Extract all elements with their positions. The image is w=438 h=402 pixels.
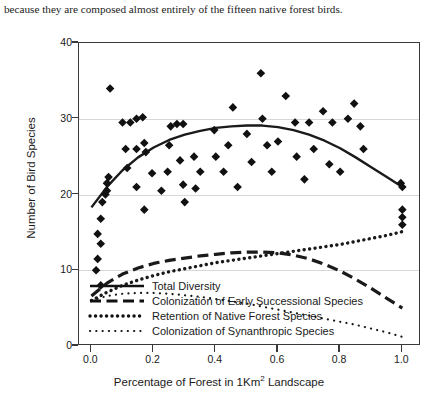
legend-label: Colonization of Early Successional Speci… [152, 295, 363, 307]
legend-line-swatch [89, 325, 145, 337]
data-point-marker [157, 186, 166, 195]
data-point-marker [224, 141, 233, 150]
data-point-marker [93, 255, 102, 264]
data-point-marker [98, 198, 107, 207]
data-point-marker [398, 205, 407, 214]
data-point-marker [219, 167, 228, 176]
data-point-marker [281, 92, 290, 101]
data-point-marker [258, 114, 267, 123]
data-point-marker [103, 179, 112, 188]
data-point-marker [132, 183, 141, 192]
data-point-marker [132, 145, 141, 154]
data-point-marker [243, 130, 252, 139]
x-axis-tick-label: 0.4 [195, 353, 235, 365]
data-point-marker [233, 183, 242, 192]
data-point-marker [300, 175, 309, 184]
data-point-marker [140, 139, 149, 148]
data-point-marker [398, 221, 407, 230]
data-point-marker [140, 205, 149, 214]
x-axis-tick-label: 0.6 [257, 353, 297, 365]
data-point-marker [179, 180, 188, 189]
data-point-marker [179, 120, 188, 129]
data-point-marker [96, 214, 105, 223]
figure-caption: because they are composed almost entirel… [4, 2, 436, 16]
data-point-marker [121, 145, 130, 154]
figure-container: 010203040 Number of Bird Species Total D… [0, 22, 438, 402]
data-point-marker [96, 239, 105, 248]
plot-area: Total DiversityColonization of Early Suc… [78, 42, 420, 345]
data-point-marker [319, 107, 328, 116]
data-point-marker [344, 114, 353, 123]
x-axis-title-main: Percentage of Forest in 1Km [114, 376, 260, 388]
data-point-marker [309, 145, 318, 154]
x-axis-tick-label: 1.0 [381, 353, 421, 365]
x-axis-title-tail: Landscape [265, 376, 324, 388]
x-axis-tick-marks [78, 345, 420, 352]
data-point-marker [93, 230, 102, 239]
x-axis-tick-mark [276, 345, 277, 352]
data-point-marker [359, 145, 368, 154]
x-axis-tick-label: 0.2 [133, 353, 173, 365]
x-axis-tick-mark [90, 345, 91, 352]
data-point-marker [104, 173, 113, 182]
legend-item: Retention of Native Forest Species [89, 309, 363, 323]
legend-item: Total Diversity [89, 279, 363, 293]
y-axis-title: Number of Bird Species [25, 68, 37, 288]
x-axis-tick-mark [152, 345, 153, 352]
legend-line-swatch [89, 280, 145, 292]
legend-label: Total Diversity [152, 280, 220, 292]
data-point-marker [263, 141, 272, 150]
data-point-marker [191, 184, 200, 193]
chart-legend: Total DiversityColonization of Early Suc… [89, 279, 363, 338]
data-point-marker [336, 167, 345, 176]
x-axis-tick-mark [214, 345, 215, 352]
data-point-marker [267, 167, 276, 176]
legend-line-swatch [89, 295, 145, 307]
x-axis-tick-label: 0.0 [70, 353, 110, 365]
data-point-marker [356, 122, 365, 131]
data-point-marker [163, 167, 172, 176]
data-point-marker [180, 198, 189, 207]
data-point-marker [350, 99, 359, 108]
x-axis-tick-labels: 0.00.20.40.60.81.0 [78, 353, 420, 369]
legend-item: Colonization of Early Successional Speci… [89, 294, 363, 308]
data-point-marker [190, 152, 199, 161]
data-point-marker [328, 118, 337, 127]
x-axis-tick-mark [338, 345, 339, 352]
y-axis-tick-labels: 010203040 [34, 42, 72, 345]
legend-line-swatch [89, 310, 145, 322]
y-axis-tick-label: 30 [42, 112, 72, 124]
data-point-marker [176, 156, 185, 165]
legend-label: Retention of Native Forest Species [152, 310, 322, 322]
legend-item: Colonization of Synanthropic Species [89, 324, 363, 338]
data-point-marker [274, 137, 283, 146]
data-point-marker [305, 118, 314, 127]
x-axis-title: Percentage of Forest in 1Km2 Landscape [0, 374, 438, 388]
y-axis-tick-label: 10 [42, 263, 72, 275]
data-point-marker [148, 169, 157, 178]
data-point-marker [398, 213, 407, 222]
data-point-marker [291, 118, 300, 127]
data-point-marker [229, 103, 238, 112]
data-point-marker [196, 167, 205, 176]
data-point-marker [257, 69, 266, 78]
data-point-marker [106, 84, 115, 93]
x-axis-tick-label: 0.8 [319, 353, 359, 365]
y-axis-tick-label: 40 [42, 36, 72, 48]
data-point-marker [247, 158, 256, 167]
data-point-marker [325, 160, 334, 169]
legend-label: Colonization of Synanthropic Species [152, 325, 334, 337]
data-point-marker [92, 266, 101, 275]
x-axis-tick-mark [401, 345, 402, 352]
data-point-marker [212, 152, 221, 161]
y-axis-tick-label: 20 [42, 188, 72, 200]
y-axis-tick-label: 0 [42, 339, 72, 351]
data-point-marker [138, 113, 147, 122]
data-point-marker [292, 152, 301, 161]
data-point-marker [118, 118, 127, 127]
